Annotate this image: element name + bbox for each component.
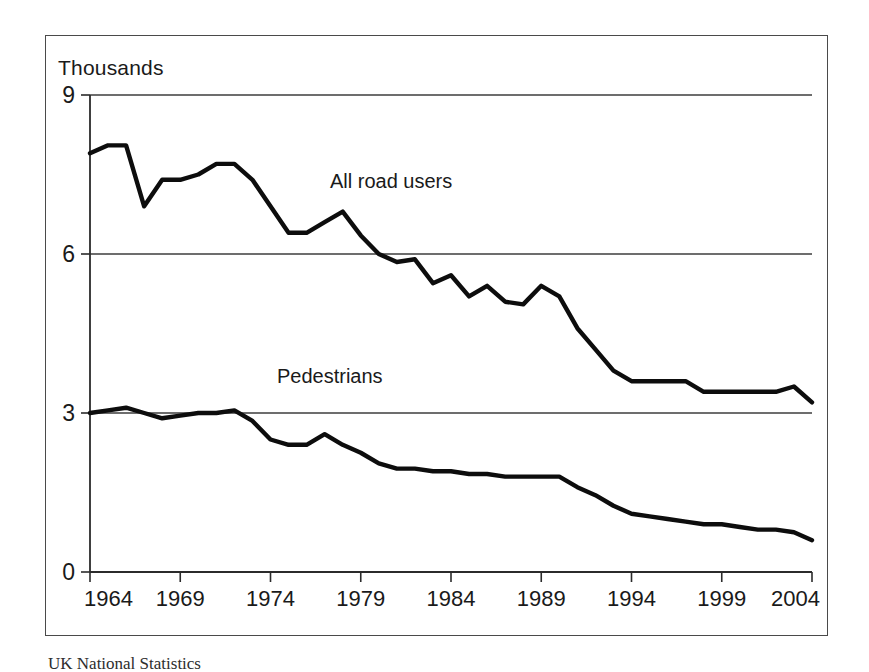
axes-group <box>90 95 812 572</box>
chart-plot: 196419691974197919841989199419992004 036… <box>0 0 869 672</box>
y-ticks-group: 0369 <box>62 82 90 585</box>
series-annotation-pedestrians: Pedestrians <box>277 365 383 388</box>
x-tick-label: 1969 <box>156 586 205 611</box>
series-line-pedestrians <box>90 408 812 541</box>
x-tick-label: 1989 <box>517 586 566 611</box>
gridlines-group <box>90 95 812 413</box>
x-tick-label: 1974 <box>246 586 295 611</box>
y-tick-label: 3 <box>62 400 75 426</box>
x-ticks-group: 196419691974197919841989199419992004 <box>84 572 820 611</box>
x-tick-label: 1984 <box>427 586 476 611</box>
y-tick-label: 9 <box>62 82 75 108</box>
figure-caption: UK National Statistics <box>48 654 201 672</box>
series-group <box>90 145 812 540</box>
y-tick-label: 6 <box>62 241 75 267</box>
x-tick-label: 2004 <box>771 586 820 611</box>
x-tick-label: 1999 <box>697 586 746 611</box>
x-tick-label: 1964 <box>84 586 133 611</box>
x-tick-label: 1979 <box>336 586 385 611</box>
y-tick-label: 0 <box>62 559 75 585</box>
series-annotation-all-road-users: All road users <box>330 170 452 193</box>
x-tick-label: 1994 <box>607 586 656 611</box>
chart-figure: Thousands 196419691974197919841989199419… <box>0 0 869 672</box>
